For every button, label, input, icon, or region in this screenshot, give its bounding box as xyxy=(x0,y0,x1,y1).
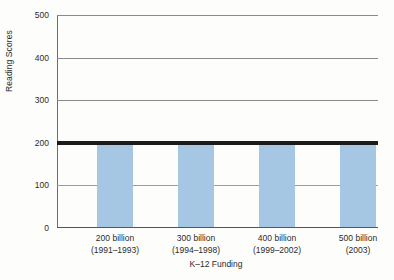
x-tick-line2: (1991–1993) xyxy=(91,245,139,257)
gridline-500 xyxy=(57,15,378,16)
bar-200-billion xyxy=(97,143,133,228)
x-tick-label-200-billion: 200 billion (1991–1993) xyxy=(91,233,139,256)
y-tick-label-200: 200 xyxy=(21,138,49,148)
x-tick-line2: (2003) xyxy=(339,245,377,257)
x-tick-line1: 300 billion xyxy=(177,233,215,243)
bar-300-billion xyxy=(178,143,214,228)
y-tick-label-500: 500 xyxy=(21,10,49,20)
x-axis-line xyxy=(57,227,378,229)
x-tick-line1: 200 billion xyxy=(96,233,134,243)
y-axis-line xyxy=(57,15,58,228)
x-tick-label-400-billion: 400 billion (1999–2002) xyxy=(253,233,301,256)
gridline-300 xyxy=(57,100,378,101)
y-tick-label-100: 100 xyxy=(21,180,49,190)
bar-400-billion xyxy=(259,143,295,228)
x-tick-label-500-billion: 500 billion (2003) xyxy=(339,233,377,256)
y-tick-label-400: 400 xyxy=(21,53,49,63)
reference-line-200 xyxy=(57,141,378,145)
reading-scores-bar-chart: Reading Scores 500 400 300 200 100 0 200… xyxy=(0,0,394,280)
plot-area xyxy=(57,15,378,228)
x-tick-label-300-billion: 300 billion (1994–1998) xyxy=(172,233,220,256)
x-tick-line2: (1999–2002) xyxy=(253,245,301,257)
y-tick-label-300: 300 xyxy=(21,95,49,105)
x-tick-line1: 400 billion xyxy=(258,233,296,243)
x-tick-line1: 500 billion xyxy=(339,233,377,243)
x-tick-line2: (1994–1998) xyxy=(172,245,220,257)
bar-500-billion xyxy=(340,143,376,228)
gridline-400 xyxy=(57,58,378,59)
y-tick-label-0: 0 xyxy=(21,223,49,233)
x-axis-title: K–12 Funding xyxy=(0,259,394,269)
